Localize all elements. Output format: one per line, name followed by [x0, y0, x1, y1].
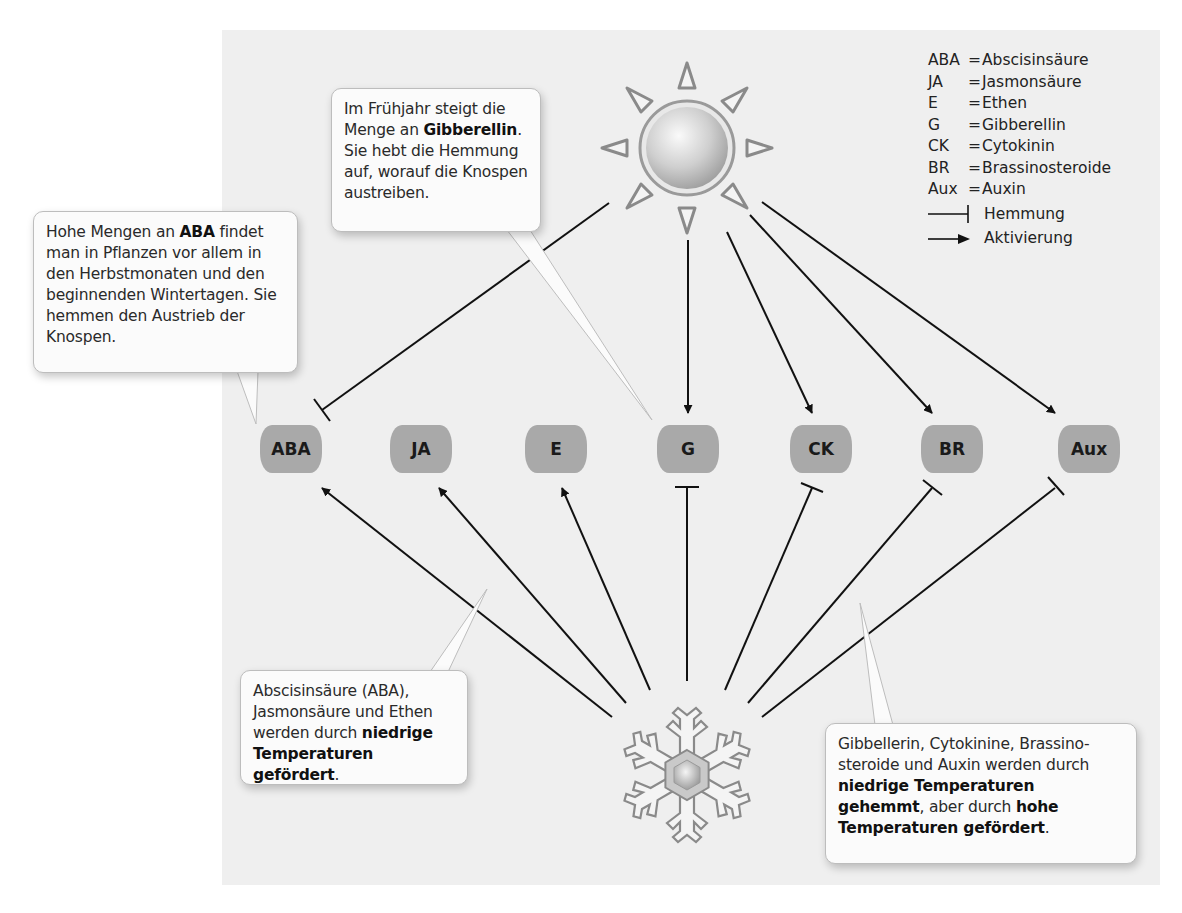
legend-activation: Aktivierung — [928, 228, 1111, 250]
legend-entry: BR=Brassinosteroide — [928, 158, 1111, 180]
callout-tail-cold-promoted — [430, 589, 487, 672]
edge-cold-br-inhibition — [748, 488, 932, 703]
edge-cold-e-activation — [562, 488, 650, 690]
callout-cold-promoted: Abscisinsäure (ABA), Jasmonsäure und Eth… — [240, 670, 468, 785]
callout-tail-aba — [237, 371, 258, 424]
callout-tail-gibberellin — [507, 230, 652, 420]
activation-arrow-icon — [928, 231, 974, 247]
snowflake-icon — [619, 708, 755, 842]
edge-sun-ck-activation — [727, 232, 812, 413]
hormone-node-aba: ABA — [260, 425, 322, 473]
legend: ABA=Abscisinsäure JA=Jasmonsäure E=Ethen… — [928, 50, 1111, 250]
edge-cold-aux-inhibition — [762, 488, 1055, 717]
hormone-node-g: G — [657, 425, 719, 473]
callout-cold-inhibited: Gibbellerin, Cytokinine, Brassino­steroi… — [825, 723, 1137, 864]
legend-entry: G=Gibberellin — [928, 115, 1111, 137]
hormone-node-ja: JA — [390, 425, 452, 473]
legend-inhibition: Hemmung — [928, 204, 1111, 226]
callout-tail-cold-inhibited — [860, 603, 893, 725]
legend-entry: ABA=Abscisinsäure — [928, 50, 1111, 72]
legend-entry: CK=Cytokinin — [928, 136, 1111, 158]
edge-cold-ja-activation — [439, 488, 626, 703]
hormone-node-ck: CK — [790, 425, 852, 473]
callout-aba: Hohe Mengen an ABA findet man in Pflanze… — [33, 211, 298, 373]
inhibition-bar-icon — [801, 483, 823, 492]
inhibition-symbol-icon — [928, 204, 974, 224]
callout-gibberellin: Im Frühjahr steigt die Menge an Gibberel… — [331, 88, 541, 232]
inhibition-bar-icon — [314, 399, 330, 421]
legend-entry: E=Ethen — [928, 93, 1111, 115]
hormone-node-aux: Aux — [1058, 425, 1120, 473]
callout-tails — [237, 230, 893, 725]
sun-icon — [602, 63, 772, 233]
hormone-node-br: BR — [921, 425, 983, 473]
legend-entry: JA=Jasmonsäure — [928, 72, 1111, 94]
edge-cold-ck-inhibition — [725, 488, 812, 690]
edge-sun-br-activation — [750, 215, 932, 413]
legend-entry: Aux=Auxin — [928, 179, 1111, 201]
hormone-node-e: E — [525, 425, 587, 473]
inhibition-bar-icon — [923, 480, 942, 495]
